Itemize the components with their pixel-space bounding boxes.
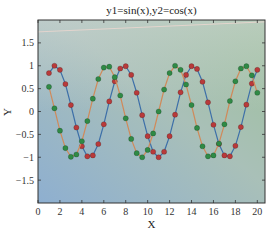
data-point [57, 128, 62, 133]
data-point [118, 93, 123, 98]
y-tick-label: 1.5 [22, 37, 35, 48]
data-point [172, 112, 177, 117]
data-point [162, 149, 167, 154]
data-point [140, 155, 145, 160]
data-point [216, 141, 221, 146]
data-point [178, 67, 183, 72]
data-point [233, 79, 238, 84]
x-tick-label: 6 [101, 206, 106, 217]
data-point [57, 67, 62, 72]
data-point [156, 109, 161, 114]
data-point [129, 72, 134, 77]
data-point [238, 124, 243, 129]
data-point [156, 155, 161, 160]
x-tick-label: 2 [57, 206, 62, 217]
data-point [96, 141, 101, 146]
y-tick-label: −1 [23, 152, 34, 163]
data-point [145, 147, 150, 152]
data-point [178, 90, 183, 95]
y-axis-label: Y [1, 108, 13, 116]
data-point [172, 63, 177, 68]
data-point [63, 146, 68, 151]
chart-figure: y1=sin(x),y2=cos(x) 02468101214161820 −1… [0, 0, 274, 234]
data-point [194, 125, 199, 130]
x-tick-label: 18 [230, 206, 240, 217]
x-tick-label: 14 [187, 206, 197, 217]
data-point [200, 79, 205, 84]
data-point [79, 139, 84, 144]
data-point [205, 100, 210, 105]
data-point [183, 72, 188, 77]
x-tick-label: 20 [252, 206, 262, 217]
x-tick-label: 8 [123, 206, 128, 217]
data-point [140, 113, 145, 118]
data-point [189, 102, 194, 107]
x-axis-label: X [38, 218, 265, 230]
data-point [52, 106, 57, 111]
x-tick-label: 16 [208, 206, 218, 217]
y-tick-label: 0.5 [22, 83, 35, 94]
data-point [74, 125, 79, 130]
data-point [200, 144, 205, 149]
x-tick-label: 12 [165, 206, 175, 217]
data-point [107, 99, 112, 104]
data-point [244, 102, 249, 107]
data-point [255, 90, 260, 95]
data-point [227, 154, 232, 159]
data-point [134, 151, 139, 156]
data-point [183, 82, 188, 87]
data-point [162, 87, 167, 92]
data-point [107, 64, 112, 69]
data-point [211, 153, 216, 158]
data-point [167, 134, 172, 139]
data-point [46, 70, 51, 75]
data-point [205, 154, 210, 159]
data-point [194, 66, 199, 71]
data-point [96, 76, 101, 81]
y-tick-label: −0.5 [16, 129, 34, 140]
data-point [151, 131, 156, 136]
data-point [112, 75, 117, 80]
data-point [129, 136, 134, 141]
data-point [238, 66, 243, 71]
x-tick-label: 4 [79, 206, 84, 217]
data-point [101, 65, 106, 70]
data-point [167, 70, 172, 75]
data-point [85, 119, 90, 124]
data-point [222, 122, 227, 127]
data-point [123, 64, 128, 69]
data-point [90, 153, 95, 158]
data-point [227, 98, 232, 103]
data-point [233, 143, 238, 148]
data-point [101, 122, 106, 127]
data-point [222, 153, 227, 158]
data-point [145, 134, 150, 139]
data-point [189, 64, 194, 69]
data-point [74, 152, 79, 157]
data-point [85, 154, 90, 159]
x-tick-label: 10 [143, 206, 153, 217]
data-point [151, 149, 156, 154]
data-point [118, 66, 123, 71]
data-point [68, 102, 73, 107]
data-point [90, 96, 95, 101]
data-point [255, 67, 260, 72]
data-point [123, 116, 128, 121]
data-point [68, 154, 73, 159]
y-tick-label: 0 [29, 106, 34, 117]
data-point [134, 90, 139, 95]
data-point [46, 84, 51, 89]
y-tick-label: 1 [29, 60, 34, 71]
data-point [244, 64, 249, 69]
data-point [249, 73, 254, 78]
y-tick-label: −1.5 [16, 175, 34, 186]
data-point [63, 81, 68, 86]
data-point [211, 122, 216, 127]
plot-area: 02468101214161820 −1.5−1−0.500.511.5 [0, 0, 274, 234]
data-point [52, 63, 57, 68]
x-tick-label: 0 [36, 206, 41, 217]
